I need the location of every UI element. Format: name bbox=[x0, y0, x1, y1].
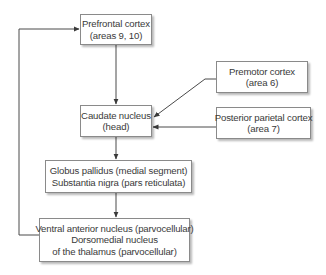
node-label-line: Ventral anterior nucleus (parvocellular) bbox=[35, 223, 193, 235]
node-label-line: Premotor cortex bbox=[229, 66, 295, 78]
node-label-line: Substantia nigra (pars reticulata) bbox=[52, 177, 186, 189]
node-premotor-cortex: Premotor cortex (area 6) bbox=[216, 61, 308, 93]
node-label-line: Posterior parietal cortex bbox=[215, 112, 313, 124]
basal-ganglia-loop-diagram: Prefrontal cortex (areas 9, 10) Premotor… bbox=[0, 0, 326, 275]
node-caudate-nucleus: Caudate nucleus (head) bbox=[80, 105, 152, 137]
node-thalamus-nuclei: Ventral anterior nucleus (parvocellular)… bbox=[39, 218, 190, 262]
node-label-line: Dorsomedial nucleus bbox=[71, 234, 158, 246]
node-prefrontal-cortex: Prefrontal cortex (areas 9, 10) bbox=[80, 14, 152, 45]
node-posterior-parietal-cortex: Posterior parietal cortex (area 7) bbox=[216, 107, 311, 139]
node-label-line: (area 7) bbox=[247, 123, 279, 135]
node-label-line: (areas 9, 10) bbox=[90, 30, 142, 42]
node-label-line: Caudate nucleus bbox=[81, 110, 151, 122]
node-label-line: (head) bbox=[103, 121, 130, 133]
node-label-line: Globus pallidus (medial segment) bbox=[50, 165, 188, 177]
node-label-line: Prefrontal cortex bbox=[82, 18, 150, 30]
edge-premotor-to-caudate bbox=[154, 79, 216, 117]
node-label-line: (area 6) bbox=[246, 77, 278, 89]
node-globus-pallidus-substantia-nigra: Globus pallidus (medial segment) Substan… bbox=[45, 160, 192, 193]
node-label-line: of the thalamus (parvocellular) bbox=[52, 246, 176, 258]
edge-thalamus-to-prefrontal bbox=[19, 29, 79, 235]
